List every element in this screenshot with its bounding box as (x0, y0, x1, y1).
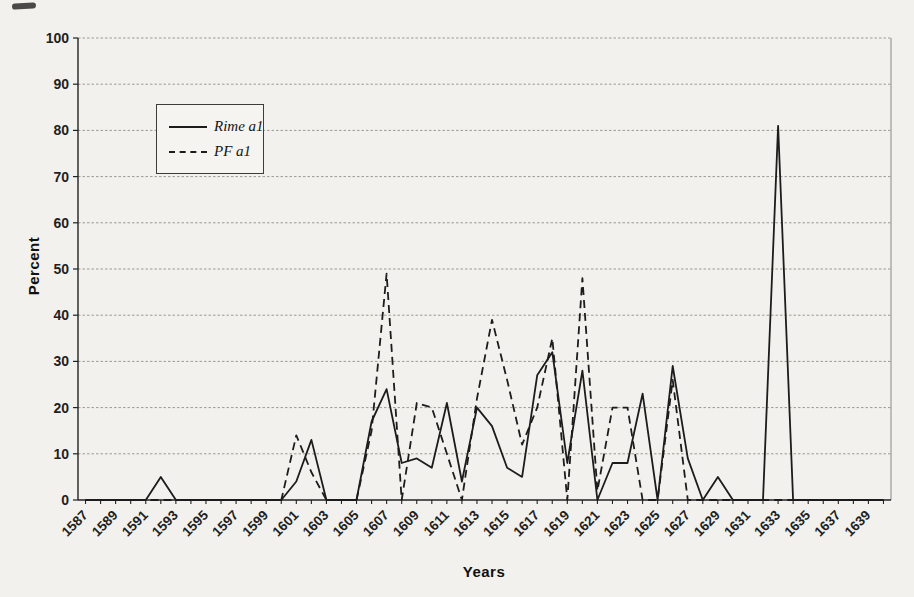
x-tick-label: 1637 (812, 508, 844, 540)
x-tick-label: 1621 (571, 507, 603, 539)
x-tick-label: 1607 (360, 508, 392, 540)
x-tick-label: 1601 (270, 507, 302, 539)
y-tick-label: 0 (61, 492, 69, 508)
x-tick-label: 1627 (661, 508, 693, 540)
x-tick-label: 1593 (149, 507, 181, 539)
y-tick-label: 30 (53, 353, 69, 369)
x-tick-label: 1589 (89, 508, 121, 540)
x-tick-label: 1635 (781, 507, 813, 539)
y-tick-label: 50 (53, 261, 69, 277)
y-tick-label: 70 (53, 169, 69, 185)
x-tick-label: 1629 (691, 508, 723, 540)
x-tick-label: 1619 (541, 508, 573, 540)
legend-label-rime-a1: Rime a1 (214, 118, 264, 135)
x-tick-label: 1615 (480, 507, 512, 539)
x-tick-label: 1623 (601, 507, 633, 539)
chart-legend: Rime a1 PF a1 (156, 104, 264, 174)
dashed-line-sample-icon (169, 151, 207, 153)
x-tick-label: 1617 (510, 508, 542, 540)
y-tick-label: 80 (53, 122, 69, 138)
legend-label-pf-a1: PF a1 (214, 143, 251, 160)
x-tick-label: 1611 (421, 507, 453, 539)
x-tick-label: 1595 (179, 507, 211, 539)
y-axis-title: Percent (25, 237, 42, 296)
y-tick-label: 100 (46, 30, 70, 46)
legend-item-rime-a1: Rime a1 (169, 114, 255, 139)
x-tick-label: 1631 (721, 507, 753, 539)
y-tick-label: 20 (53, 400, 69, 416)
x-tick-label: 1599 (239, 508, 271, 540)
x-tick-label: 1633 (751, 507, 783, 539)
x-tick-label: 1605 (330, 507, 362, 539)
x-tick-label: 1597 (209, 508, 241, 540)
x-tick-label: 1603 (300, 507, 332, 539)
y-tick-label: 40 (53, 307, 69, 323)
x-tick-label: 1639 (842, 508, 874, 540)
x-tick-label: 1625 (631, 507, 663, 539)
scanned-chart-page: 0102030405060708090100158715891591159315… (0, 0, 914, 597)
x-tick-label: 1591 (119, 507, 151, 539)
legend-item-pf-a1: PF a1 (169, 139, 255, 164)
series-line-rime-a1 (86, 126, 884, 500)
x-tick-label: 1609 (390, 508, 422, 540)
y-tick-label: 90 (53, 76, 69, 92)
y-tick-label: 10 (53, 446, 69, 462)
x-tick-label: 1587 (59, 508, 91, 540)
solid-line-sample-icon (169, 126, 207, 128)
y-tick-label: 60 (53, 215, 69, 231)
x-tick-label: 1613 (450, 507, 482, 539)
x-axis-title: Years (463, 563, 506, 580)
line-chart-canvas: 0102030405060708090100158715891591159315… (0, 0, 914, 597)
